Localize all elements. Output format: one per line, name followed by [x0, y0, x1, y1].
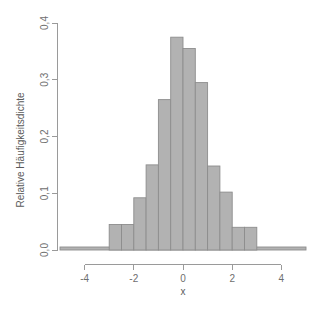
- histogram-canvas: Relative Häufigkeitsdichte 0,00,10,20,30…: [0, 0, 324, 315]
- x-axis-ticks: -4-2024: [80, 265, 284, 285]
- histogram-bar: [208, 166, 220, 250]
- histogram-bar: [220, 192, 232, 250]
- y-tick-label: 0,1: [39, 186, 50, 200]
- x-axis-title: x: [181, 286, 186, 297]
- histogram-bar: [122, 224, 134, 250]
- x-tick-label: 4: [279, 273, 285, 284]
- y-tick-label: 0,3: [39, 72, 50, 86]
- y-tick-label: 0,2: [39, 129, 50, 143]
- y-axis-ticks: 0,00,10,20,30,4: [39, 16, 58, 257]
- x-tick-label: 0: [180, 273, 186, 284]
- x-tick-label: 2: [229, 273, 235, 284]
- histogram-bar: [134, 198, 146, 250]
- histogram-bar: [158, 100, 170, 250]
- y-tick-label: 0,0: [39, 243, 50, 257]
- histogram-bar: [171, 37, 183, 250]
- histogram-plot: Relative Häufigkeitsdichte 0,00,10,20,30…: [0, 0, 324, 315]
- histogram-bar: [232, 227, 244, 250]
- histogram-bar: [109, 224, 121, 250]
- y-tick-label: 0,4: [39, 16, 50, 30]
- histogram-bar: [183, 49, 195, 250]
- x-tick-label: -2: [129, 273, 138, 284]
- histogram-bar: [146, 165, 158, 250]
- histogram-bar: [195, 83, 207, 250]
- histogram-bars: [60, 37, 306, 250]
- x-tick-label: -4: [80, 273, 89, 284]
- histogram-bar: [245, 227, 257, 250]
- y-axis-title: Relative Häufigkeitsdichte: [15, 92, 26, 207]
